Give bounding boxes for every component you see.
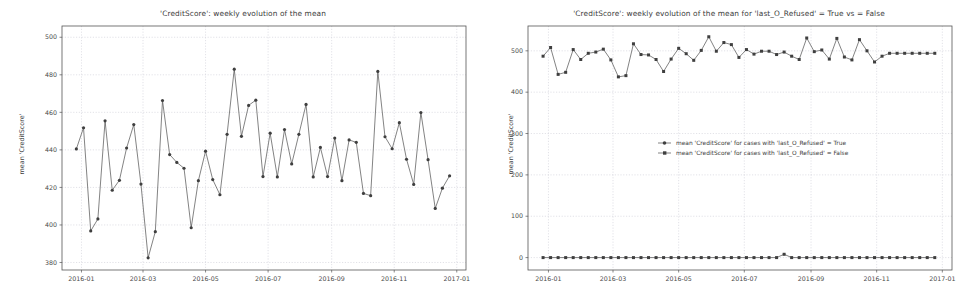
x-tick-label: 2017-01	[929, 275, 955, 282]
plot-area-left: 3804004204404604805002016-012016-032016-…	[0, 0, 486, 296]
plot-area-right: 01002003004005002016-012016-032016-05201…	[486, 0, 972, 296]
chart-panel-left: 'CreditScore': weekly evolution of the m…	[0, 0, 486, 296]
figure-canvas: 'CreditScore': weekly evolution of the m…	[0, 0, 972, 296]
x-tick-label: 2016-01	[535, 275, 561, 282]
y-tick-label: 460	[45, 109, 57, 116]
y-tick-label: 500	[511, 47, 523, 54]
x-tick-label: 2016-11	[864, 275, 890, 282]
chart-panel-right: 'CreditScore': weekly evolution of the m…	[486, 0, 972, 296]
y-tick-label: 400	[511, 88, 523, 95]
x-tick-label: 2016-07	[255, 275, 281, 282]
y-tick-label: 440	[45, 146, 57, 153]
x-tick-label: 2016-03	[600, 275, 626, 282]
x-tick-label: 2016-09	[798, 275, 824, 282]
y-tick-label: 500	[45, 33, 57, 40]
legend-entry-label: mean 'CreditScore' for cases with 'last_…	[676, 150, 849, 157]
y-tick-label: 420	[45, 184, 57, 191]
x-tick-label: 2016-05	[192, 275, 218, 282]
y-tick-label: 380	[45, 259, 57, 266]
x-tick-label: 2016-03	[130, 275, 156, 282]
x-tick-label: 2016-05	[666, 275, 692, 282]
legend-entry-label: mean 'CreditScore' for cases with 'last_…	[676, 140, 846, 147]
x-tick-label: 2017-01	[444, 275, 470, 282]
y-tick-label: 400	[45, 221, 57, 228]
y-axis-label-right: mean 'CreditScore'	[507, 109, 515, 179]
y-tick-label: 0	[519, 254, 523, 261]
x-tick-label: 2016-01	[68, 275, 94, 282]
x-tick-label: 2016-07	[731, 275, 757, 282]
y-tick-label: 480	[45, 71, 57, 78]
x-tick-label: 2016-09	[319, 275, 345, 282]
y-tick-label: 100	[511, 212, 523, 219]
x-tick-label: 2016-11	[381, 275, 407, 282]
